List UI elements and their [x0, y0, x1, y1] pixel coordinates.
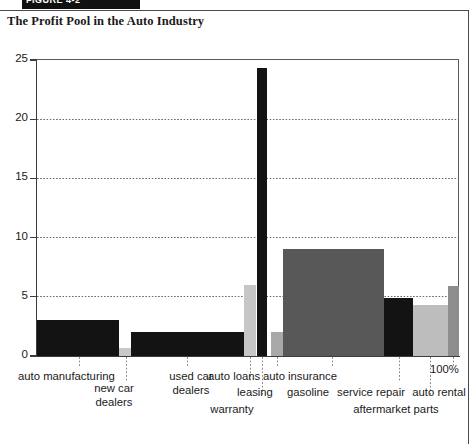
bars-layer [37, 60, 459, 356]
x-label-service-repair: service repair [334, 385, 408, 399]
bar-service-repair [384, 298, 413, 356]
y-tick-label-15: 15 [0, 170, 28, 182]
x-label-leasing: leasing [233, 385, 277, 399]
figure-number-strip: FIGURE 4-2 [22, 0, 140, 9]
x-label-aftermarket-parts: aftermarket parts [341, 402, 451, 416]
y-tick-label-0: 0 [0, 348, 28, 360]
x-tick-5 [277, 357, 278, 367]
x-tick-7 [399, 357, 400, 381]
y-tick-label-25: 25 [0, 52, 28, 64]
x-label-auto-rental: auto rental [410, 385, 468, 399]
x-tick-1 [126, 357, 127, 381]
bar-warranty [257, 68, 267, 356]
x-tick-6 [332, 357, 333, 367]
x-tick-0 [79, 357, 80, 367]
x-label-gasoline: gasoline [283, 385, 333, 399]
y-tick-label-5: 5 [0, 289, 28, 301]
bar-auto-insurance [283, 249, 384, 356]
bar-auto-manufacturing [37, 320, 119, 356]
y-tick-label-20: 20 [0, 111, 28, 123]
x-label-auto-loans: auto loans [208, 369, 260, 383]
page-border-right [468, 10, 469, 444]
figure-page: FIGURE 4-2 The Profit Pool in the Auto I… [0, 0, 475, 444]
bar-aftermarket-parts [413, 305, 447, 356]
x-label-new-car-dealers: new cardealers [88, 381, 140, 409]
page-border-top [0, 10, 469, 11]
page-title: The Profit Pool in the Auto Industry [7, 14, 204, 29]
bar-new-car-dealers [119, 348, 131, 356]
x-tick-2 [187, 357, 188, 367]
y-tick-label-10: 10 [0, 230, 28, 242]
bar-used-car-dealers [131, 332, 244, 356]
bar-auto-rental [448, 286, 459, 356]
x-label-auto-insurance: auto insurance [258, 369, 342, 383]
figure-number-label: FIGURE 4-2 [26, 0, 81, 5]
axis-end-label: 100% [430, 363, 459, 375]
x-axis-line [36, 356, 460, 357]
bar-gasoline [271, 332, 283, 356]
x-label-warranty: warranty [192, 402, 272, 416]
bar-leasing [244, 285, 256, 356]
